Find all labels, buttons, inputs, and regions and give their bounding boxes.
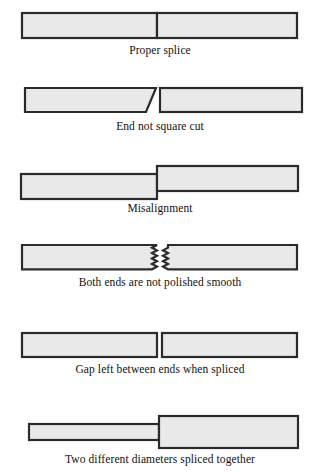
right-fiber-bar <box>162 333 297 357</box>
caption-misalignment: Misalignment <box>0 202 320 214</box>
left-fiber-bar <box>22 13 157 38</box>
left-fiber-bar-angled-end <box>25 88 156 112</box>
caption-different-diameters: Two different diameters spliced together <box>0 453 320 465</box>
right-fiber-bar <box>160 88 302 112</box>
caption-ends-not-polished: Both ends are not polished smooth <box>0 276 320 288</box>
right-fiber-bar-high <box>157 166 298 191</box>
panel-end-not-square-cut: End not square cut <box>0 78 320 148</box>
left-fiber-bar-low <box>21 174 157 199</box>
panel-ends-not-polished: Both ends are not polished smooth <box>0 236 320 308</box>
caption-proper-splice: Proper splice <box>0 44 320 56</box>
panel-misalignment: Misalignment <box>0 155 320 227</box>
right-fiber-bar <box>157 13 297 38</box>
different-diameters-figure <box>0 408 320 453</box>
thick-fiber-bar <box>159 416 298 448</box>
thin-fiber-bar <box>29 424 159 440</box>
proper-splice-figure <box>0 0 320 50</box>
panel-proper-splice: Proper splice <box>0 0 320 70</box>
panel-gap-between-ends: Gap left between ends when spliced <box>0 322 320 394</box>
misalignment-figure <box>0 155 320 209</box>
panel-different-diameters: Two different diameters spliced together <box>0 408 320 474</box>
left-fiber-bar-rough-end <box>22 245 157 269</box>
right-fiber-bar-rough-end <box>163 245 297 269</box>
caption-gap-between-ends: Gap left between ends when spliced <box>0 363 320 375</box>
caption-end-not-square-cut: End not square cut <box>0 120 320 132</box>
left-fiber-bar <box>22 333 157 357</box>
splice-diagram: Proper splice End not square cut Misalig… <box>0 0 320 474</box>
